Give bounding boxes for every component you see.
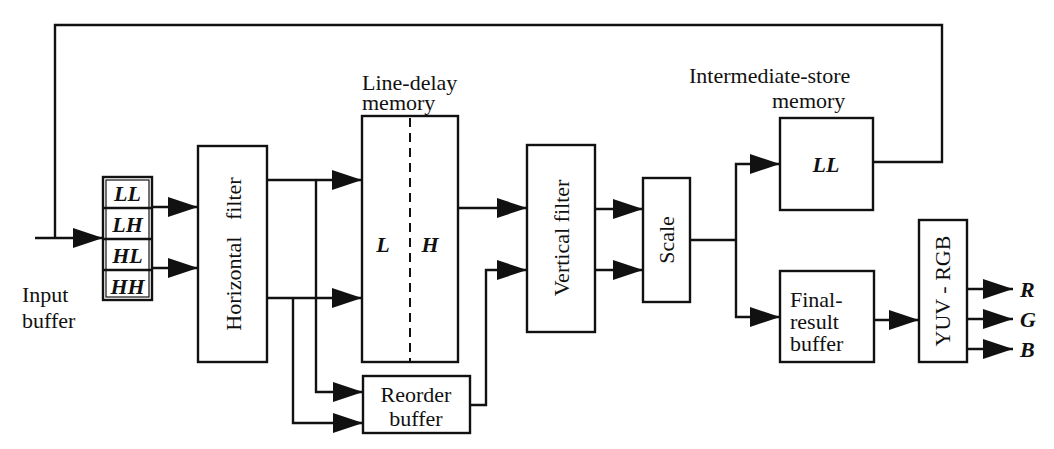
reorder-label-1: Reorder bbox=[381, 382, 453, 407]
yuv-rgb-label: YUV - RGB bbox=[930, 236, 955, 347]
input-buffer-stack: LL LH HL HH bbox=[103, 177, 152, 300]
cell-ll: LL bbox=[113, 181, 141, 206]
intermediate-title-2: memory bbox=[772, 88, 845, 113]
line-delay-title-2: memory bbox=[362, 90, 435, 115]
output-g: G bbox=[1020, 307, 1036, 332]
hfilter-to-reorder-top-arrow bbox=[316, 180, 363, 392]
block-diagram: LL LH HL HH Input buffer Horizontal filt… bbox=[0, 0, 1054, 449]
input-label-1: Input bbox=[22, 282, 68, 307]
horizontal-filter-label: Horizontal filter bbox=[221, 177, 246, 331]
vertical-filter-label: Vertical filter bbox=[549, 179, 574, 296]
intermediate-ll: LL bbox=[812, 152, 840, 177]
cell-hh: HH bbox=[109, 274, 145, 299]
reorder-label-2: buffer bbox=[389, 406, 443, 431]
output-b: B bbox=[1019, 337, 1035, 362]
cell-hl: HL bbox=[111, 243, 143, 268]
hfilter-to-reorder-bottom-arrow bbox=[293, 298, 363, 423]
intermediate-title-1: Intermediate-store bbox=[689, 63, 850, 88]
line-delay-h: H bbox=[420, 232, 439, 257]
input-label-2: buffer bbox=[22, 308, 76, 333]
cell-lh: LH bbox=[111, 212, 143, 237]
output-r: R bbox=[1019, 277, 1035, 302]
line-delay-l: L bbox=[375, 232, 389, 257]
scale-to-final-arrow bbox=[736, 240, 780, 317]
scale-to-intermediate-arrow bbox=[736, 164, 780, 240]
final-label-3: buffer bbox=[790, 331, 844, 356]
scale-label: Scale bbox=[654, 216, 679, 264]
reorder-to-vfilter-arrow bbox=[470, 270, 527, 405]
